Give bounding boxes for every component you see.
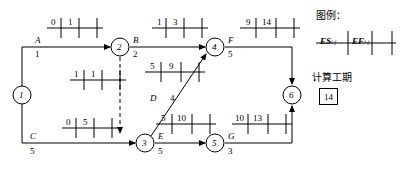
computed-duration-title: 计算工期	[312, 73, 352, 83]
ef-value-b: 3	[173, 18, 178, 27]
legend-ef-subscript: i-j	[364, 39, 369, 45]
node-label-3: 3	[142, 139, 147, 148]
event-node-circles	[13, 38, 301, 152]
legend-title: 图例：	[316, 11, 346, 21]
activity-duration-a: 1	[35, 50, 40, 59]
computed-duration-value: 14	[319, 88, 338, 105]
activity-name-b: B	[133, 36, 139, 45]
activity-name-a: A	[35, 36, 41, 45]
node-label-5: 5	[212, 139, 217, 148]
legend-es-subscript: i-j	[331, 39, 336, 45]
activity-duration-g: 3	[228, 147, 233, 156]
arrow-activity-f	[225, 47, 292, 84]
node-label-6: 6	[289, 91, 294, 100]
es-value-f: 9	[246, 18, 251, 27]
es-value-a: 0	[51, 18, 56, 27]
legend-ef-symbol: EF	[352, 36, 364, 46]
activity-name-g: G	[228, 132, 235, 141]
es-value-d: 5	[150, 62, 155, 71]
ef-value-d: 9	[169, 62, 174, 71]
es-value-dummy: 1	[74, 70, 79, 79]
activity-duration-c: 5	[30, 147, 35, 156]
activity-duration-f: 5	[228, 50, 233, 59]
activity-duration-b: 2	[133, 50, 138, 59]
node-label-4: 4	[212, 43, 217, 52]
ef-value-c: 5	[83, 118, 88, 127]
legend-es-cell: ESi-j	[320, 31, 336, 47]
activity-name-c: C	[30, 132, 36, 141]
activity-arrows	[22, 47, 292, 143]
es-value-b: 1	[157, 18, 162, 27]
diagram-vector-layer	[0, 0, 404, 173]
activity-duration-d: 4	[170, 94, 175, 103]
network-diagram-canvas: 1 2 3 4 5 6 A 1 B 2 C 5 D 4 E 5 F 5 G 3 …	[0, 0, 404, 173]
activity-name-f: F	[228, 36, 234, 45]
activity-duration-e: 5	[158, 147, 163, 156]
ef-value-a: 1	[68, 18, 73, 27]
ef-value-f: 14	[262, 18, 271, 27]
legend-ef-cell: EFi-j	[352, 31, 369, 47]
ef-value-dummy: 1	[91, 70, 96, 79]
es-value-c: 0	[66, 118, 71, 127]
ef-value-g: 13	[253, 114, 262, 123]
activity-name-d: D	[150, 94, 157, 103]
node-label-1: 1	[19, 91, 24, 100]
ef-value-e: 10	[177, 114, 186, 123]
es-value-g: 10	[235, 114, 244, 123]
node-label-2: 2	[117, 43, 122, 52]
legend-es-symbol: ES	[320, 36, 331, 46]
activity-name-e: E	[158, 132, 164, 141]
arrow-activity-c	[22, 104, 135, 143]
es-value-e: 5	[161, 114, 166, 123]
